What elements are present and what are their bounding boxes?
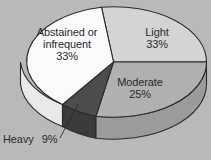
slice-label-moderate-name: Moderate	[110, 76, 170, 88]
slice-value-moderate: 25%	[110, 88, 170, 100]
slice-value-light: 33%	[133, 38, 181, 50]
slice-label-heavy: Heavy 9%	[3, 133, 65, 145]
slice-value-abstained: 33%	[24, 50, 110, 62]
slice-label-abstained-line1: Abstained or	[24, 26, 110, 38]
slice-label-abstained: Abstained or infrequent 33%	[24, 26, 110, 62]
slice-label-light-name: Light	[133, 26, 181, 38]
slice-label-light: Light 33%	[133, 26, 181, 50]
slice-value-heavy: 9%	[42, 133, 58, 145]
slice-label-heavy-name: Heavy	[3, 133, 34, 145]
slice-label-moderate: Moderate 25%	[110, 76, 170, 100]
pie-chart: Abstained or infrequent 33% Light 33% Mo…	[0, 0, 211, 160]
slice-label-abstained-line2: infrequent	[24, 38, 110, 50]
